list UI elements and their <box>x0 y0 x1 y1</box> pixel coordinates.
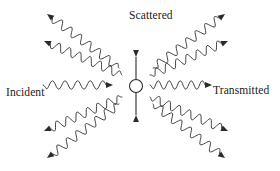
scattered-wave-lower-left-steep-arrowhead <box>47 151 54 158</box>
scattered-wave-upper-left-steep-arrowhead <box>47 14 54 21</box>
scatterer-circle <box>130 80 143 93</box>
oscillation-arrowhead-down <box>133 115 139 122</box>
scattered-label: Scattered <box>129 9 173 21</box>
scattered-wave-upper-right-shallow <box>150 41 228 76</box>
scattered-wave-lower-right-steep <box>153 104 225 158</box>
scattered-wave-upper-left-steep <box>47 14 119 68</box>
scattered-wave-lower-left-shallow <box>44 96 122 131</box>
scattered-wave-upper-left-steep-path <box>50 16 119 68</box>
incident-wave <box>43 81 113 89</box>
scattered-wave-lower-left-steep <box>47 104 119 158</box>
incident-label: Incident <box>6 86 44 98</box>
scattered-wave-lower-right-steep-arrowhead <box>218 151 225 158</box>
transmitted-wave-path <box>150 81 209 89</box>
scattered-wave-upper-right-steep-arrowhead <box>218 14 225 21</box>
transmitted-wave-arrowhead <box>205 82 212 88</box>
transmitted-wave <box>150 81 212 89</box>
scattered-wave-lower-left-steep-path <box>50 104 119 156</box>
scattered-wave-upper-right-shallow-path <box>150 41 225 76</box>
scattered-wave-lower-left-shallow-path <box>47 96 122 131</box>
scattering-diagram: Incident Transmitted Scattered <box>0 0 280 171</box>
scattered-wave-upper-right-steep <box>153 14 225 68</box>
scattered-wave-upper-left-shallow-path <box>47 42 122 75</box>
incident-wave-path <box>43 81 110 89</box>
incident-wave-arrowhead <box>106 82 113 88</box>
scattered-wave-lower-right-steep-path <box>153 104 222 156</box>
scatterer-layer <box>130 50 143 122</box>
scattered-wave-upper-right-steep-path <box>153 16 222 68</box>
transmitted-label: Transmitted <box>213 84 269 96</box>
oscillation-arrowhead-up <box>133 50 139 57</box>
scattered-wave-lower-right-shallow-path <box>150 96 225 129</box>
